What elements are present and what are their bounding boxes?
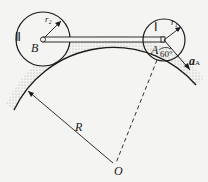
label-radius-big: R — [75, 121, 82, 133]
label-angle: 60° — [160, 50, 173, 59]
label-acceleration: aA — [189, 55, 200, 67]
label-center-a: A — [151, 44, 158, 56]
acceleration-subscript: A — [195, 59, 200, 67]
label-center-b: B — [31, 42, 38, 54]
mechanism-diagram: Ⅱ B r₂ Ⅰ A r₁ 60° aA R O — [0, 0, 208, 182]
dashed-line-ao — [116, 60, 157, 163]
connecting-rod — [41, 37, 166, 42]
label-wheel-1: Ⅰ — [154, 21, 158, 33]
label-center-o: O — [114, 165, 123, 177]
diagram-drawing — [0, 0, 208, 182]
label-radius-2: r₂ — [45, 15, 52, 24]
radius-r-line — [28, 91, 113, 163]
label-wheel-2: Ⅱ — [15, 31, 21, 43]
label-radius-1: r₁ — [171, 18, 178, 27]
